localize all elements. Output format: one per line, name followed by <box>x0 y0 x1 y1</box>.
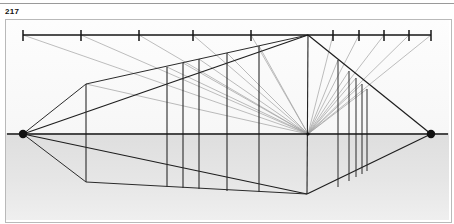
page-top-rule <box>0 3 454 4</box>
figure-plate <box>5 19 452 223</box>
perspective-construction-diagram <box>6 20 449 220</box>
center-vanishing-point-marker <box>306 132 309 135</box>
figure-number-label: 217 <box>5 7 19 17</box>
vanishing-point-left-marker <box>19 130 27 138</box>
figure-page: 217 <box>0 0 454 224</box>
vanishing-point-right-marker <box>427 130 435 138</box>
